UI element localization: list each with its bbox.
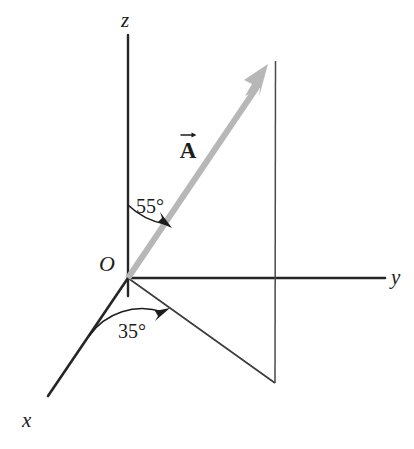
vector-a-shaft <box>128 87 257 278</box>
figure-canvas: z y x O 55° 35° A <box>0 0 414 449</box>
vector-a-label: A <box>178 139 198 162</box>
vector-a <box>128 64 268 278</box>
vertical-dropline <box>275 61 276 383</box>
z-axis-label: z <box>121 10 129 31</box>
azimuth-angle-label: 35° <box>118 321 146 341</box>
origin-label: O <box>99 253 115 275</box>
vector-overarrow-icon <box>180 130 197 138</box>
axes-and-vector-svg <box>0 0 414 449</box>
xy-projection-line <box>128 278 275 383</box>
x-axis-line <box>48 278 128 396</box>
x-axis-label: x <box>22 410 31 431</box>
polar-angle-label: 55° <box>136 196 164 216</box>
y-axis-label: y <box>391 267 400 288</box>
vector-a-letter: A <box>178 139 198 162</box>
